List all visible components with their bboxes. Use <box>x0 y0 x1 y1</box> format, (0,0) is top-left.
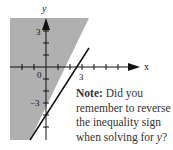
note-end: ? <box>162 131 167 143</box>
x-axis-label: x <box>144 61 149 72</box>
x-axis-arrow-icon <box>128 63 140 71</box>
note-text: Note: Did you remember to reverse the in… <box>76 86 173 144</box>
y-axis-label: y <box>41 3 47 14</box>
x-tick-label-3: 3 <box>79 72 84 82</box>
origin-label: 0 <box>37 70 42 80</box>
y-tick-label-neg3: −3 <box>30 98 40 108</box>
note-label: Note: <box>76 87 103 99</box>
y-tick-label-3: 3 <box>36 27 41 37</box>
